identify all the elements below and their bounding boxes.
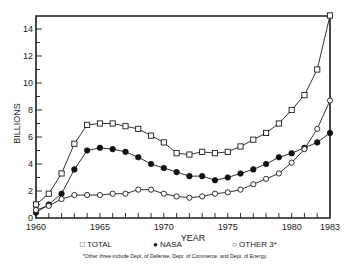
x-tick-label: 1965 — [90, 222, 110, 232]
y-tick-label: 8 — [28, 105, 33, 115]
y-tick-label: 10 — [23, 78, 33, 88]
open-circle-icon: ○ — [232, 240, 237, 249]
y-tick-label: 14 — [23, 24, 33, 34]
legend-item-other: ○ OTHER 3* — [232, 240, 277, 249]
series-total — [33, 13, 332, 207]
y-tick-label: 2 — [28, 186, 33, 196]
footnote: *Other three include Dept. of Defense, D… — [0, 253, 350, 259]
line-chart: 02468101214196019651970197519801983YEARB… — [0, 0, 350, 275]
x-axis-label: YEAR — [181, 233, 206, 243]
filled-circle-icon: ● — [153, 240, 158, 249]
x-tick-label: 1983 — [320, 222, 340, 232]
series-other-3 — [33, 98, 332, 213]
legend-item-total: □ TOTAL — [80, 240, 112, 249]
y-tick-label: 6 — [28, 132, 33, 142]
x-tick-label: 1960 — [26, 222, 46, 232]
series-nasa — [33, 130, 333, 215]
x-tick-label: 1970 — [154, 222, 174, 232]
plot-frame — [36, 16, 330, 218]
y-tick-label: 12 — [23, 51, 33, 61]
x-tick-label: 1980 — [282, 222, 302, 232]
y-axis-label: BILLIONS — [12, 103, 22, 144]
x-tick-label: 1975 — [218, 222, 238, 232]
y-tick-label: 4 — [28, 159, 33, 169]
open-square-icon: □ — [80, 240, 85, 249]
legend-item-nasa: ● NASA — [153, 240, 182, 249]
